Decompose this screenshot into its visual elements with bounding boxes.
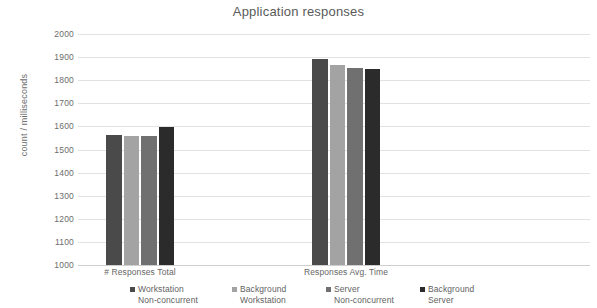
x-axis-category-labels: # Responses TotalResponses Avg. Time (78, 267, 590, 281)
legend-item[interactable]: Workstation Non-concurrent (130, 284, 198, 305)
y-axis-tick-label: 1700 (54, 98, 74, 108)
bar (347, 68, 363, 265)
legend-label: Background Server (428, 284, 474, 305)
bar (312, 59, 328, 265)
legend-swatch-icon (130, 287, 135, 292)
legend-label: Workstation Non-concurrent (138, 284, 198, 305)
bars-layer (78, 34, 590, 265)
y-axis-tick-label: 1200 (54, 214, 74, 224)
y-axis-tick-label: 1500 (54, 145, 74, 155)
legend-label: Server Non-concurrent (334, 284, 394, 305)
bar (106, 135, 122, 265)
y-axis-tick-label: 1900 (54, 52, 74, 62)
chart-legend: Workstation Non-concurrentBackground Wor… (130, 284, 550, 308)
bar (141, 136, 157, 265)
y-axis-tick-label: 1000 (54, 260, 74, 270)
bar (330, 65, 346, 266)
legend-swatch-icon (326, 287, 331, 292)
bar (124, 136, 140, 265)
y-axis-tick-label: 1300 (54, 191, 74, 201)
plot-area (78, 34, 590, 265)
y-axis-tick-label: 1400 (54, 168, 74, 178)
bar (365, 69, 381, 265)
legend-item[interactable]: Background Workstation (232, 284, 286, 305)
chart-title: Application responses (0, 4, 597, 19)
y-axis-tick-labels: 2000190018001700160015001400130012001100… (30, 34, 74, 265)
y-axis-tick-label: 1600 (54, 121, 74, 131)
x-axis-category-label: # Responses Total (104, 267, 175, 277)
legend-swatch-icon (232, 287, 237, 292)
legend-label: Background Workstation (240, 284, 286, 305)
y-axis-title: count / milliseconds (19, 45, 29, 185)
legend-swatch-icon (420, 287, 425, 292)
chart-container: Application responses count / millisecon… (0, 0, 597, 308)
y-axis-tick-label: 1100 (55, 237, 74, 247)
bar (159, 127, 175, 265)
x-axis-line (78, 265, 590, 266)
y-axis-tick-label: 2000 (54, 29, 74, 39)
x-axis-category-label: Responses Avg. Time (304, 267, 388, 277)
legend-item[interactable]: Server Non-concurrent (326, 284, 394, 305)
legend-item[interactable]: Background Server (420, 284, 474, 305)
y-axis-tick-label: 1800 (54, 75, 74, 85)
